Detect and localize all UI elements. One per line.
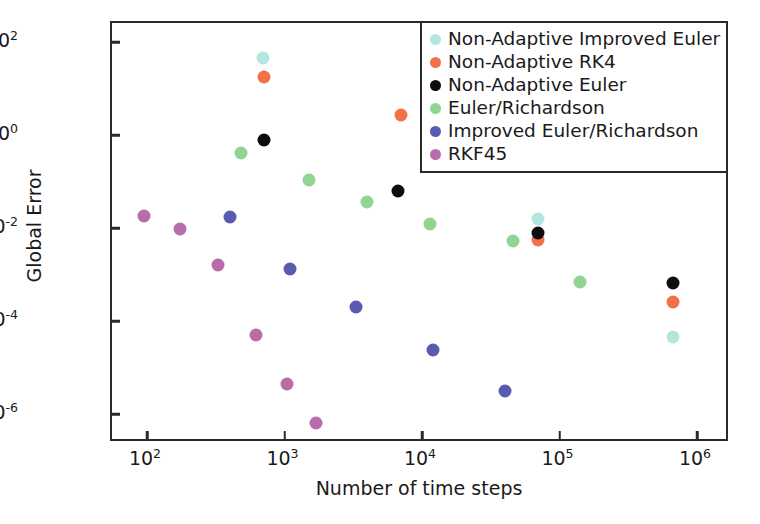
scatter-point (310, 416, 323, 429)
legend-label: RKF45 (448, 145, 507, 164)
scatter-point (667, 277, 680, 290)
scatter-point (424, 218, 437, 231)
scatter-point (573, 276, 586, 289)
scatter-point (212, 259, 225, 272)
scatter-point (258, 70, 271, 83)
scatter-point (498, 384, 511, 397)
scatter-point (137, 210, 150, 223)
legend-label: Euler/Richardson (448, 99, 605, 118)
y-tick-label: 10-6 (0, 401, 18, 423)
x-axis-title: Number of time steps (110, 477, 728, 499)
figure-canvas: 10210010-210-410-6 102103104105106 Numbe… (0, 0, 760, 524)
scatter-point (302, 173, 315, 186)
scatter-point (281, 377, 294, 390)
x-tick-label: 103 (266, 447, 298, 469)
scatter-point (667, 295, 680, 308)
y-tick-label: 102 (0, 29, 18, 51)
legend-marker-icon (430, 80, 441, 91)
legend-marker-icon (430, 103, 441, 114)
y-tick-label: 10-2 (0, 215, 18, 237)
scatter-point (361, 195, 374, 208)
scatter-point (349, 301, 362, 314)
scatter-point (392, 185, 405, 198)
legend-box: Non-Adaptive Improved EulerNon-Adaptive … (420, 21, 728, 173)
scatter-point (223, 211, 236, 224)
legend-marker-icon (430, 57, 441, 68)
y-tick-label: 10-4 (0, 308, 18, 330)
legend-item[interactable]: Non-Adaptive RK4 (430, 51, 720, 74)
legend-item[interactable]: RKF45 (430, 143, 720, 166)
legend-item[interactable]: Non-Adaptive Improved Euler (430, 28, 720, 51)
legend-label: Non-Adaptive Improved Euler (448, 30, 720, 49)
scatter-point (507, 234, 520, 247)
legend-item[interactable]: Non-Adaptive Euler (430, 74, 720, 97)
legend-label: Non-Adaptive Euler (448, 76, 626, 95)
legend-label: Improved Euler/Richardson (448, 122, 698, 141)
legend-label: Non-Adaptive RK4 (448, 53, 616, 72)
legend-item[interactable]: Improved Euler/Richardson (430, 120, 720, 143)
scatter-point (174, 222, 187, 235)
scatter-point (394, 108, 407, 121)
scatter-point (257, 52, 270, 65)
legend-marker-icon (430, 149, 441, 160)
y-axis-title: Global Error (23, 106, 45, 346)
scatter-point (249, 328, 262, 341)
scatter-point (426, 343, 439, 356)
scatter-point (234, 146, 247, 159)
legend-item[interactable]: Euler/Richardson (430, 97, 720, 120)
x-tick-label: 104 (404, 447, 436, 469)
scatter-point (532, 212, 545, 225)
x-tick-label: 105 (541, 447, 573, 469)
x-tick-label: 106 (679, 447, 711, 469)
scatter-point (284, 263, 297, 276)
scatter-point (532, 227, 545, 240)
x-tick-label: 102 (129, 447, 161, 469)
legend-marker-icon (430, 126, 441, 137)
scatter-point (258, 133, 271, 146)
y-tick-label: 100 (0, 122, 18, 144)
legend-marker-icon (430, 34, 441, 45)
scatter-point (667, 331, 680, 344)
